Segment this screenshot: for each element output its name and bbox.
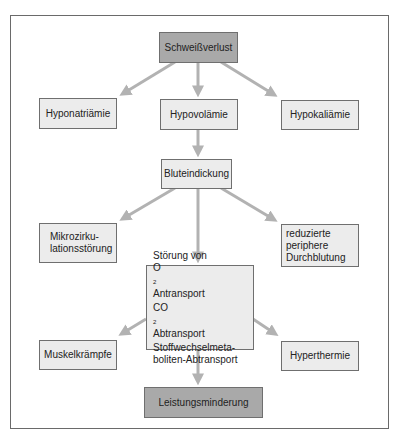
node-label: Schweißverlust	[165, 42, 233, 54]
co2-subscript: 2	[153, 319, 156, 325]
node-label-line1: Mikrozirku-	[50, 231, 99, 243]
arrow-root-to-hyponatriaemie	[124, 62, 175, 93]
arrow-root-to-hypokaliaemie	[221, 62, 273, 94]
node-hyponatriaemie: Hyponatriämie	[39, 98, 117, 129]
node-label-line3: CO2 Abtransport	[153, 302, 205, 340]
node-label: Hyponatriämie	[46, 108, 110, 120]
arrow-bluteindickung-to-durchblutung	[221, 188, 273, 219]
node-label: Muskelkrämpfe	[44, 349, 112, 361]
node-hypokaliaemie: Hypokaliämie	[281, 100, 359, 130]
co2-suffix: Abtransport	[153, 328, 205, 340]
node-label: Hypokaliämie	[290, 109, 350, 121]
node-label: Bluteindickung	[164, 168, 229, 180]
node-reduzierte-durchblutung: reduzierte periphere Durchblutung	[281, 224, 359, 267]
node-label: Hypovolämie	[170, 109, 228, 121]
node-label-line2: periphere	[286, 240, 328, 252]
node-label-line3: Durchblutung	[286, 252, 345, 264]
node-label-line1: Störung von	[153, 250, 207, 262]
o2-suffix: Antransport	[153, 288, 205, 300]
node-stoerung-transport: Störung von O2 Antransport CO2 Abtranspo…	[146, 265, 254, 350]
node-label: Leistungsminderung	[158, 397, 248, 409]
node-mikrozirkulationsstoerung: Mikrozirku- lationsstörung	[39, 223, 117, 263]
node-label: Hyperthermie	[290, 350, 350, 362]
co2-prefix: CO	[153, 302, 205, 314]
o2-prefix: O	[153, 262, 205, 274]
node-schweissverlust: Schweißverlust	[159, 32, 238, 63]
arrow-bluteindickung-to-mikrozirkulation	[124, 188, 175, 218]
node-hypovolaemie: Hypovolämie	[160, 99, 238, 130]
node-label-line2: lationsstörung	[50, 243, 112, 255]
node-leistungsminderung: Leistungsminderung	[144, 387, 263, 418]
node-muskelkraempfe: Muskelkrämpfe	[39, 340, 117, 370]
node-label-line1: reduzierte	[286, 228, 330, 240]
arrow-stoerung-to-muskelkraempfe	[123, 319, 146, 333]
node-label-line4: Stoffwechselmeta-	[153, 342, 235, 354]
node-bluteindickung: Bluteindickung	[161, 159, 232, 189]
arrow-stoerung-to-hyperthermie	[253, 319, 274, 333]
o2-subscript: 2	[153, 279, 156, 285]
node-hyperthermie: Hyperthermie	[281, 341, 359, 371]
node-label-line2: O2 Antransport	[153, 262, 205, 300]
arrows-layer	[0, 0, 395, 442]
node-label-line5: boliten-Abtransport	[153, 354, 238, 366]
